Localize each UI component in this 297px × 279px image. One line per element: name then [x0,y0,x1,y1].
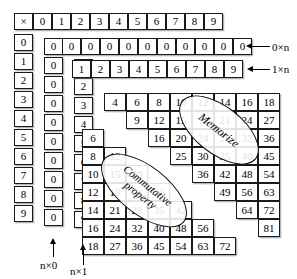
arrow-0-times-n-line [252,46,270,47]
header-cell-10[interactable]: 9 [204,13,223,30]
row-1-times-n-cell-2[interactable]: 3 [110,60,129,78]
header-cell-0[interactable]: × [14,13,33,30]
n-times-one-cell-2[interactable]: 3 [74,97,93,114]
arrow-1-times-n-line [253,69,270,70]
row-7-times-n-cell-0[interactable]: 49 [214,183,236,201]
header-cell-9[interactable]: 8 [185,13,204,30]
left-index-cell-4[interactable]: 4 [14,110,33,127]
row-9-times-n-cell-0[interactable]: 81 [258,219,280,237]
header-cell-7[interactable]: 6 [147,13,166,30]
row-0-times-n-cell-4[interactable]: 0 [138,38,157,55]
n-times-zero-cell-7[interactable]: 0 [44,171,63,188]
row-1-times-n-cell-4[interactable]: 5 [148,60,167,78]
row-0-times-n-cell-5[interactable]: 0 [157,38,176,55]
memorize-label: Memorize [195,109,242,150]
arrow-n-times-one-head [80,244,86,250]
row-0-times-n-cell-1[interactable]: 0 [81,38,100,55]
row-4-times-n-cell-0[interactable]: 16 [148,129,170,147]
arrow-n-times-zero-line [53,243,54,257]
row-7-times-n-cell-2[interactable]: 63 [258,183,280,201]
header-cell-3[interactable]: 2 [71,13,90,30]
row-1-times-n-cell-5[interactable]: 6 [167,60,186,78]
row-6-times-n-cell-2[interactable]: 48 [236,165,258,183]
arrow-0-times-n-head [246,43,252,49]
row-6-times-n-cell-1[interactable]: 42 [214,165,236,183]
header-cell-6[interactable]: 5 [128,13,147,30]
header-cell-5[interactable]: 4 [109,13,128,30]
lower-row-g-cell-1[interactable]: 27 [104,237,126,255]
lower-row-g-cell-2[interactable]: 36 [126,237,148,255]
row-5-times-n-cell-4[interactable]: 45 [258,147,280,165]
left-index-cell-2[interactable]: 2 [14,72,33,89]
header-cell-2[interactable]: 1 [52,13,71,30]
row-0-times-n-cell-6[interactable]: 0 [176,38,195,55]
row-2-times-n-cell-6[interactable]: 16 [236,93,258,111]
lower-row-f-cell-2[interactable]: 32 [126,219,148,237]
lower-row-g-cell-6[interactable]: 72 [214,237,236,255]
figure-canvas: ×012345678901234567890000000000123456789… [0,0,297,279]
n-times-zero-cell-5[interactable]: 0 [44,133,63,150]
label-0-times-n: 0×n [272,41,289,53]
row-7-times-n-cell-1[interactable]: 56 [236,183,258,201]
lower-row-f-cell-5[interactable]: 56 [192,219,214,237]
n-times-zero-cell-6[interactable]: 0 [44,152,63,169]
row-0-times-n-cell-7[interactable]: 0 [195,38,214,55]
n-times-zero-cell-4[interactable]: 0 [44,114,63,131]
row-2-times-n-cell-1[interactable]: 6 [126,93,148,111]
left-index-cell-6[interactable]: 6 [14,148,33,165]
arrow-n-times-zero-head [50,238,56,244]
row-2-times-n-cell-7[interactable]: 18 [258,93,280,111]
header-cell-8[interactable]: 7 [166,13,185,30]
n-times-zero-cell-8[interactable]: 0 [44,190,63,207]
row-1-times-n-cell-0[interactable]: 1 [72,60,91,78]
row-1-times-n-cell-6[interactable]: 7 [186,60,205,78]
lower-row-f-cell-1[interactable]: 24 [104,219,126,237]
lower-row-d-cell-0[interactable]: 12 [82,183,104,201]
label-1-times-n: 1×n [272,63,289,75]
row-1-times-n-cell-8[interactable]: 9 [224,60,243,78]
label-n-times-one: n×1 [70,265,87,277]
row-3-times-n-cell-6[interactable]: 27 [258,111,280,129]
n-times-zero-cell-0[interactable]: 0 [44,38,63,55]
row-2-times-n-cell-2[interactable]: 8 [148,93,170,111]
row-8-times-n-cell-0[interactable]: 64 [236,201,258,219]
row-6-times-n-cell-0[interactable]: 36 [192,165,214,183]
lower-row-g-cell-3[interactable]: 45 [148,237,170,255]
arrow-n-times-one-line [83,249,84,265]
n-times-zero-cell-9[interactable]: 0 [44,209,63,226]
left-index-cell-8[interactable]: 8 [14,186,33,203]
row-2-times-n-cell-0[interactable]: 4 [104,93,126,111]
lower-row-e-cell-0[interactable]: 14 [82,201,104,219]
n-times-one-cell-1[interactable]: 2 [74,78,93,95]
n-times-zero-cell-1[interactable]: 0 [44,57,63,74]
row-5-times-n-cell-0[interactable]: 25 [170,147,192,165]
row-1-times-n-cell-1[interactable]: 2 [91,60,110,78]
row-0-times-n-cell-2[interactable]: 0 [100,38,119,55]
row-3-times-n-cell-1[interactable]: 12 [148,111,170,129]
row-3-times-n-cell-0[interactable]: 9 [126,111,148,129]
lower-row-g-cell-4[interactable]: 54 [170,237,192,255]
header-cell-1[interactable]: 0 [33,13,52,30]
row-0-times-n-cell-0[interactable]: 0 [62,38,81,55]
row-8-times-n-cell-1[interactable]: 72 [258,201,280,219]
label-n-times-zero: n×0 [40,259,57,271]
row-1-times-n-cell-7[interactable]: 8 [205,60,224,78]
left-index-cell-9[interactable]: 9 [14,205,33,222]
lower-row-f-cell-0[interactable]: 16 [82,219,104,237]
row-6-times-n-cell-3[interactable]: 54 [258,165,280,183]
left-index-cell-1[interactable]: 1 [14,53,33,70]
row-0-times-n-cell-8[interactable]: 0 [214,38,233,55]
row-4-times-n-cell-5[interactable]: 36 [258,129,280,147]
arrow-1-times-n-head [247,66,253,72]
header-cell-4[interactable]: 3 [90,13,109,30]
lower-row-g-cell-5[interactable]: 63 [192,237,214,255]
row-1-times-n-cell-3[interactable]: 4 [129,60,148,78]
left-index-cell-0[interactable]: 0 [14,34,33,51]
left-index-cell-7[interactable]: 7 [14,167,33,184]
n-times-zero-cell-2[interactable]: 0 [44,76,63,93]
row-0-times-n-cell-3[interactable]: 0 [119,38,138,55]
left-index-cell-5[interactable]: 5 [14,129,33,146]
lower-row-a-cell-0[interactable]: 6 [82,129,104,147]
left-index-cell-3[interactable]: 3 [14,91,33,108]
n-times-zero-cell-3[interactable]: 0 [44,95,63,112]
